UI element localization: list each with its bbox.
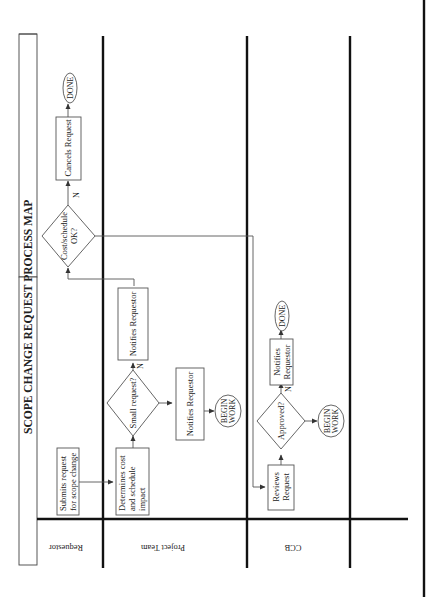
decision-approved: Approved? — [257, 393, 305, 449]
scope-change-process-map: SCOPE CHANGE REQUEST PROCESS MAP Request… — [0, 0, 432, 597]
svg-text:DONE: DONE — [278, 305, 287, 327]
terminal-begin-work-project-team: BEGIN WORK — [215, 395, 241, 427]
terminal-done-requestor: DONE — [63, 73, 77, 103]
svg-text:DONE: DONE — [66, 77, 75, 99]
svg-text:Approved?: Approved? — [276, 402, 286, 440]
node-ccb-notify-requestor: Notifies Requestor — [270, 339, 293, 385]
lane-label-project-team: Project Team — [140, 543, 185, 552]
svg-text:Submits request: Submits request — [58, 455, 68, 511]
svg-text:and schedule: and schedule — [127, 466, 137, 511]
svg-text:Small request?: Small request? — [128, 377, 138, 428]
title-band: SCOPE CHANGE REQUEST PROCESS MAP — [19, 34, 37, 565]
svg-text:WORK: WORK — [228, 399, 237, 424]
svg-text:impact: impact — [137, 487, 147, 511]
lane-label-requestor: Requestor — [49, 543, 83, 552]
swimlane-grid — [37, 0, 424, 597]
svg-text:WORK: WORK — [331, 409, 340, 434]
node-notify-requestor-no: Notifies Requestor — [118, 288, 148, 360]
page-title: SCOPE CHANGE REQUEST PROCESS MAP — [22, 200, 34, 434]
terminal-begin-work-ccb: BEGIN WORK — [318, 405, 344, 437]
svg-text:Cancels Request: Cancels Request — [63, 119, 73, 177]
node-cancel-request: Cancels Request — [56, 117, 81, 180]
node-reviews-request: Reviews Request — [268, 465, 294, 510]
svg-text:Notifies Requestor: Notifies Requestor — [128, 292, 138, 357]
svg-text:for scope change: for scope change — [68, 453, 78, 511]
lane-label-ccb: CCB — [284, 543, 301, 552]
branch-label-costok-no: N — [72, 192, 81, 198]
branch-label-approved-no: N — [284, 386, 293, 392]
svg-text:Notifies: Notifies — [272, 348, 282, 376]
svg-text:Requestor: Requestor — [282, 344, 292, 379]
svg-text:Determines cost: Determines cost — [117, 455, 127, 511]
svg-text:Request: Request — [281, 473, 291, 501]
decision-cost-schedule-ok: Cost/schedule OK? — [42, 205, 95, 267]
node-notify-requestor-yes: Notifies Requestor — [176, 368, 204, 440]
branch-label-small-no: N — [136, 363, 145, 369]
terminal-done-ccb: DONE — [275, 301, 289, 331]
decision-small-request: Small request? — [107, 370, 159, 436]
svg-text:OK?: OK? — [69, 228, 79, 244]
svg-text:Reviews: Reviews — [271, 472, 281, 502]
svg-text:Notifies Requestor: Notifies Requestor — [185, 372, 195, 437]
svg-text:Cost/schedule: Cost/schedule — [59, 212, 69, 260]
node-submit-request: Submits request for scope change — [57, 448, 79, 515]
node-determine-impact: Determines cost and schedule impact — [116, 448, 149, 515]
